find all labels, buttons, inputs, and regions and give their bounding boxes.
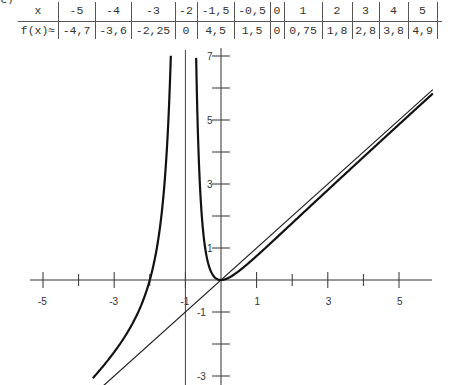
y-tick-label: 5 [207, 115, 213, 126]
x-tick-label: 1 [255, 296, 261, 307]
y-tick-label: 1 [207, 243, 213, 254]
y-tick-label: -1 [197, 307, 206, 318]
oblique-asymptote [104, 90, 433, 385]
axes [30, 48, 432, 385]
y-tick-label: 7 [207, 51, 213, 62]
function-graph: -5-3-11357531-1-3 [0, 0, 456, 385]
y-tick-label: 3 [207, 179, 213, 190]
curve-right-branch [196, 58, 433, 280]
x-tick-label: -5 [38, 296, 47, 307]
x-tick-label: -3 [109, 296, 118, 307]
y-tick-label: -3 [197, 371, 206, 382]
curve-left-branch [93, 56, 171, 378]
x-tick-label: 3 [326, 296, 332, 307]
x-tick-label: 5 [397, 296, 403, 307]
